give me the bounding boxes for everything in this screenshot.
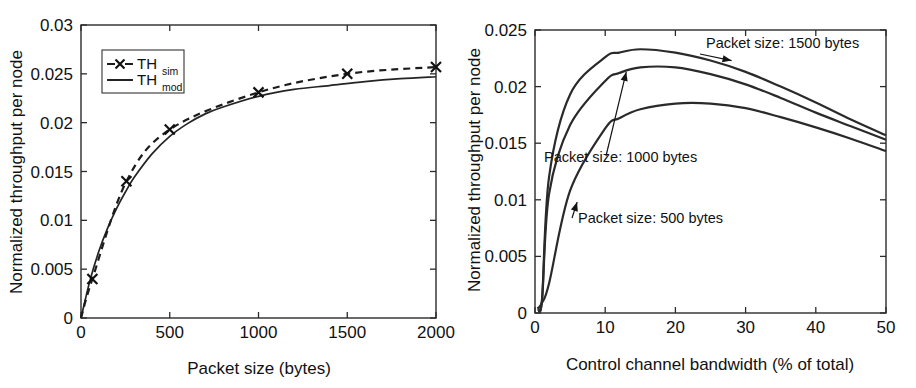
right-axis-ticks: 0102030405000.0050.010.0150.020.025 (484, 21, 895, 337)
figure-canvas: 050010001500200000.0050.010.0150.020.025… (0, 0, 916, 388)
left-xtick-label: 1500 (328, 323, 366, 342)
right-chart-svg: 0102030405000.0050.010.0150.020.025 Pack… (458, 0, 916, 388)
annotation-arrow-head-2 (571, 202, 578, 212)
right-ytick-label: 0.015 (484, 134, 527, 153)
legend-label-th-sim-sub: sim (162, 65, 179, 77)
left-axis-ticks: 050010001500200000.0050.010.0150.020.025… (30, 16, 454, 342)
series-line-th-sim (81, 67, 436, 318)
right-y-axis-title: Normalized throughput per node (465, 48, 484, 292)
annotation-label-1: Packet size: 1000 bytes (544, 149, 697, 165)
left-x-axis-title: Packet size (bytes) (187, 359, 331, 378)
right-xtick-label: 10 (596, 318, 615, 337)
left-ytick-label: 0.025 (30, 65, 73, 84)
annotation-arrow-head-0 (722, 55, 732, 62)
right-series-group (538, 49, 886, 311)
chart-panel-right: 0102030405000.0050.010.0150.020.025 Pack… (458, 0, 916, 388)
right-ytick-label: 0 (518, 304, 527, 323)
left-xtick-label: 500 (156, 323, 184, 342)
left-xtick-label: 2000 (417, 323, 455, 342)
legend-label-th-mod-base: TH (137, 71, 157, 88)
right-xtick-label: 50 (877, 318, 896, 337)
right-x-axis-title: Control channel bandwidth (% of total) (566, 355, 854, 374)
series-line-th-mod (81, 77, 436, 318)
annotation-label-0: Packet size: 1500 bytes (706, 35, 859, 51)
chart-panel-left: 050010001500200000.0050.010.0150.020.025… (0, 0, 458, 388)
annotation-leader-line-1 (606, 72, 626, 156)
series-line-2 (538, 103, 886, 309)
annotation-label-2: Packet size: 500 bytes (578, 210, 723, 226)
right-ytick-label: 0.025 (484, 21, 527, 40)
left-ytick-label: 0 (64, 309, 73, 328)
legend-label-th-sim-base: TH (137, 55, 157, 72)
right-ytick-label: 0.02 (494, 78, 527, 97)
left-ytick-label: 0.01 (40, 211, 73, 230)
left-xtick-label: 1000 (240, 323, 278, 342)
left-legend: THsimTHmod (102, 50, 184, 93)
left-xtick-label: 0 (76, 323, 85, 342)
data-point-marker-x (165, 125, 175, 135)
series-line-0 (538, 49, 886, 311)
right-xtick-label: 40 (806, 318, 825, 337)
right-ytick-label: 0.005 (484, 247, 527, 266)
left-chart-svg: 050010001500200000.0050.010.0150.020.025… (0, 0, 458, 388)
right-xtick-label: 0 (530, 318, 539, 337)
annotation-arrow-head-1 (621, 72, 628, 82)
left-ytick-label: 0.02 (40, 114, 73, 133)
left-ytick-label: 0.015 (30, 163, 73, 182)
left-ytick-label: 0.03 (40, 16, 73, 35)
legend-label-th-mod-sub: mod (162, 81, 183, 93)
right-xtick-label: 20 (666, 318, 685, 337)
right-ytick-label: 0.01 (494, 191, 527, 210)
left-y-axis-title: Normalized throughput per node (7, 50, 26, 294)
right-annotations-group: Packet size: 1500 bytesPacket size: 1000… (544, 35, 859, 226)
left-series-group (81, 62, 441, 318)
data-point-marker-x (121, 176, 131, 186)
left-ytick-label: 0.005 (30, 260, 73, 279)
right-xtick-label: 30 (736, 318, 755, 337)
